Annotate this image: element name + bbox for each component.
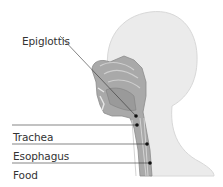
label-trachea: Trachea: [13, 131, 53, 143]
trachea-dot: [135, 123, 139, 127]
label-food: Food: [13, 169, 38, 181]
epiglottis-dot: [134, 114, 138, 118]
sagittal-section: [92, 56, 152, 176]
label-esophagus: Esophagus: [13, 150, 69, 162]
anatomy-diagram: Epiglottis Trachea Esophagus Food: [0, 0, 223, 187]
food-dot: [148, 161, 152, 165]
esophagus-dot: [145, 142, 149, 146]
label-epiglottis: Epiglottis: [22, 35, 70, 47]
